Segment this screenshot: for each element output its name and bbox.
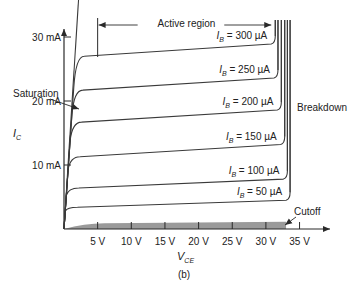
curve-label: IB = 250 µA (219, 64, 270, 77)
active-region-label: Active region (158, 18, 216, 29)
curve-label-value: = 50 µA (244, 186, 282, 197)
x-tick-label: 25 V (222, 236, 243, 247)
y-ticks: 10 mA20 mA30 mA (32, 32, 71, 171)
x-tick-label: 20 V (188, 236, 209, 247)
breakdown-label: Breakdown (297, 102, 347, 113)
curve-label: IB = 100 µA (229, 165, 280, 178)
x-tick-label: 10 V (121, 236, 142, 247)
x-axis-title-sub: CE (184, 257, 194, 264)
saturation-label: Saturation (13, 88, 59, 99)
x-tick-label: 5 V (90, 236, 105, 247)
curve-label: IB = 50 µA (237, 186, 283, 199)
cutoff-arrow (285, 217, 296, 225)
curve-label-value: = 150 µA (233, 131, 277, 142)
curve-label-value: = 250 µA (227, 64, 271, 75)
curve-label: IB = 200 µA (223, 96, 274, 109)
saturation-line (64, 0, 79, 229)
x-axis-title: VCE (177, 250, 194, 264)
y-tick-label: 30 mA (32, 32, 61, 43)
curve-labels: IB = 300 µAIB = 250 µAIB = 200 µAIB = 15… (217, 30, 283, 199)
curve-label: IB = 300 µA (217, 30, 268, 43)
ib-curve (64, 20, 278, 229)
curve-label: IB = 150 µA (226, 131, 277, 144)
cutoff-label: Cutoff (294, 206, 321, 217)
x-tick-label: 15 V (155, 236, 176, 247)
curve-label-value: = 100 µA (236, 165, 280, 176)
ib-curve (64, 20, 281, 229)
curve-label-value: = 300 µA (224, 30, 268, 41)
y-axis-title: IC (13, 127, 22, 141)
curve-label-value: = 200 µA (230, 96, 274, 107)
y-tick-label: 10 mA (32, 160, 61, 171)
x-tick-label: 30 V (256, 236, 277, 247)
transistor-characteristic-chart: 5 V10 V15 V20 V25 V30 V35 V 10 mA20 mA30… (0, 0, 356, 290)
figure-caption: (b) (178, 269, 190, 280)
chart-svg: 5 V10 V15 V20 V25 V30 V35 V 10 mA20 mA30… (0, 0, 356, 290)
ib-curve (64, 20, 285, 229)
x-tick-label: 35 V (289, 236, 310, 247)
y-axis-title-sub: C (16, 134, 22, 141)
